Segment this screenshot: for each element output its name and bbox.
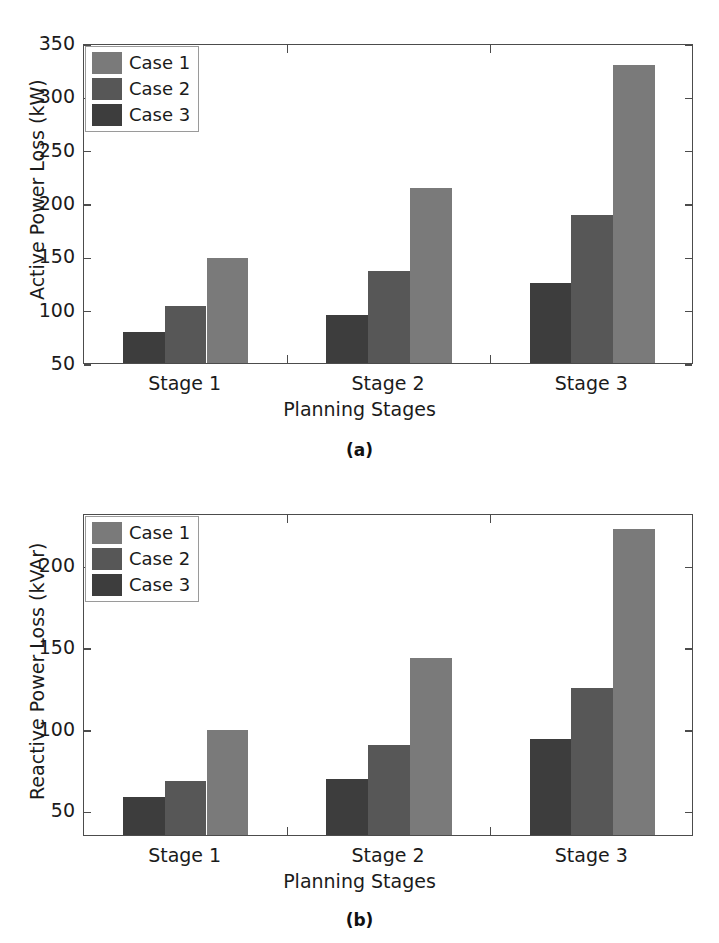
bar-case3-stage1[interactable] bbox=[123, 797, 165, 835]
y-tick-mark-right bbox=[685, 648, 692, 650]
legend-swatch-case3 bbox=[92, 574, 122, 596]
bar-case2-stage2[interactable] bbox=[368, 745, 410, 835]
bar-case3-stage1[interactable] bbox=[123, 332, 165, 363]
y-tick-mark-right bbox=[685, 364, 692, 366]
legend-label-case2: Case 2 bbox=[129, 80, 190, 98]
y-tick-mark-right bbox=[685, 567, 692, 569]
y-tick-mark bbox=[84, 151, 91, 153]
y-tick-mark bbox=[84, 648, 91, 650]
y-tick-label: 150 bbox=[39, 636, 75, 658]
y-tick-label: 350 bbox=[39, 32, 75, 54]
y-tick-label: 200 bbox=[39, 192, 75, 214]
bar-case2-stage1[interactable] bbox=[165, 781, 207, 835]
legend-swatch-case2 bbox=[92, 548, 122, 570]
panel-caption-a-text: (a) bbox=[346, 440, 373, 460]
x-tick-mark-top bbox=[490, 515, 492, 523]
bar-case1-stage2[interactable] bbox=[410, 658, 452, 835]
legend-swatch-case1 bbox=[92, 522, 122, 544]
panel-caption-b: (b) bbox=[0, 910, 719, 930]
bar-case2-stage3[interactable] bbox=[571, 688, 613, 835]
bar-case2-stage3[interactable] bbox=[571, 215, 613, 363]
legend-label-case1: Case 1 bbox=[129, 524, 190, 542]
chart-panel-a: Active Power Loss (kW) 50100150200250300… bbox=[0, 0, 719, 480]
y-tick-mark-right bbox=[685, 730, 692, 732]
legend-item-case1[interactable]: Case 1 bbox=[92, 522, 190, 544]
x-tick-mark-top bbox=[490, 45, 492, 53]
figure-container: Active Power Loss (kW) 50100150200250300… bbox=[0, 0, 719, 943]
x-tick-label-stage1: Stage 1 bbox=[125, 372, 245, 394]
y-tick-mark-right bbox=[685, 204, 692, 206]
legend-b: Case 1 Case 2 Case 3 bbox=[85, 516, 199, 602]
bar-case2-stage1[interactable] bbox=[165, 306, 207, 363]
bar-case1-stage2[interactable] bbox=[410, 188, 452, 363]
y-tick-mark-right bbox=[685, 812, 692, 814]
bar-case3-stage2[interactable] bbox=[326, 779, 368, 835]
y-tick-label: 50 bbox=[51, 799, 75, 821]
legend-swatch-case1 bbox=[92, 52, 122, 74]
y-tick-label: 150 bbox=[39, 245, 75, 267]
plot-area-a: Active Power Loss (kW) 50100150200250300… bbox=[0, 0, 719, 400]
y-tick-label: 100 bbox=[39, 299, 75, 321]
x-tick-label-stage3: Stage 3 bbox=[531, 844, 651, 866]
legend-label-case3: Case 3 bbox=[129, 576, 190, 594]
x-axis-label-b: Planning Stages bbox=[0, 870, 719, 892]
legend-label-case2: Case 2 bbox=[129, 550, 190, 568]
x-tick-label-stage1: Stage 1 bbox=[125, 844, 245, 866]
bar-case1-stage1[interactable] bbox=[207, 258, 249, 363]
x-tick-mark-bottom bbox=[287, 827, 289, 835]
x-tick-mark-bottom bbox=[490, 355, 492, 363]
y-tick-mark bbox=[84, 812, 91, 814]
bar-case3-stage3[interactable] bbox=[530, 739, 572, 835]
y-tick-mark bbox=[84, 258, 91, 260]
y-tick-label: 200 bbox=[39, 554, 75, 576]
bar-case1-stage3[interactable] bbox=[613, 65, 655, 363]
legend-swatch-case2 bbox=[92, 78, 122, 100]
chart-panel-b: Reactive Power Loss (kVAr) 50100150200 C… bbox=[0, 470, 719, 943]
y-axis-label-b: Reactive Power Loss (kVAr) bbox=[26, 543, 48, 800]
x-tick-label-stage2: Stage 2 bbox=[328, 844, 448, 866]
y-tick-mark-right bbox=[685, 151, 692, 153]
legend-swatch-case3 bbox=[92, 104, 122, 126]
x-axis-label-a: Planning Stages bbox=[0, 398, 719, 420]
y-tick-label: 50 bbox=[51, 352, 75, 374]
axes-b: 50100150200 Case 1 Case 2 Case 3 bbox=[83, 514, 693, 836]
x-tick-mark-top bbox=[287, 45, 289, 53]
x-tick-label-stage2: Stage 2 bbox=[328, 372, 448, 394]
y-tick-mark-right bbox=[685, 311, 692, 313]
y-tick-mark bbox=[84, 311, 91, 313]
bar-case3-stage3[interactable] bbox=[530, 283, 572, 363]
x-tick-mark-top bbox=[287, 515, 289, 523]
legend-label-case1: Case 1 bbox=[129, 54, 190, 72]
y-tick-mark bbox=[84, 730, 91, 732]
panel-caption-b-text: (b) bbox=[346, 910, 374, 930]
bar-case1-stage1[interactable] bbox=[207, 730, 249, 835]
legend-item-case3[interactable]: Case 3 bbox=[92, 104, 190, 126]
axes-a: 50100150200250300350 Case 1 Case 2 Case … bbox=[83, 44, 693, 364]
x-tick-label-stage3: Stage 3 bbox=[531, 372, 651, 394]
legend-item-case2[interactable]: Case 2 bbox=[92, 548, 190, 570]
y-tick-mark bbox=[84, 364, 91, 366]
x-tick-mark-bottom bbox=[490, 827, 492, 835]
y-tick-label: 100 bbox=[39, 718, 75, 740]
plot-area-b: Reactive Power Loss (kVAr) 50100150200 C… bbox=[0, 470, 719, 870]
legend-label-case3: Case 3 bbox=[129, 106, 190, 124]
y-tick-mark-right bbox=[685, 44, 692, 46]
y-tick-label: 300 bbox=[39, 85, 75, 107]
y-tick-mark-right bbox=[685, 98, 692, 100]
panel-caption-a: (a) bbox=[0, 440, 719, 460]
bar-case1-stage3[interactable] bbox=[613, 529, 655, 835]
y-tick-mark bbox=[84, 204, 91, 206]
legend-item-case3[interactable]: Case 3 bbox=[92, 574, 190, 596]
legend-item-case2[interactable]: Case 2 bbox=[92, 78, 190, 100]
y-tick-mark-right bbox=[685, 258, 692, 260]
legend-a: Case 1 Case 2 Case 3 bbox=[85, 46, 199, 132]
x-tick-mark-bottom bbox=[287, 355, 289, 363]
legend-item-case1[interactable]: Case 1 bbox=[92, 52, 190, 74]
y-tick-label: 250 bbox=[39, 139, 75, 161]
bar-case3-stage2[interactable] bbox=[326, 315, 368, 363]
bar-case2-stage2[interactable] bbox=[368, 271, 410, 363]
